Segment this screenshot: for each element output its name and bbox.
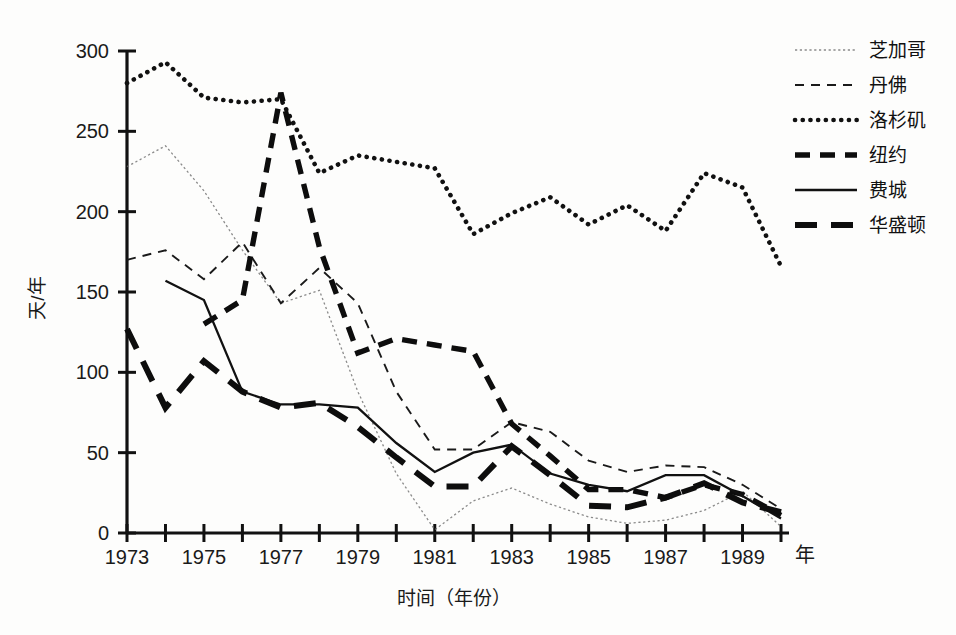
y-tick-label: 50 xyxy=(87,442,109,464)
series-line xyxy=(165,281,781,519)
chart-container: 050100150200250300 197319751977197919811… xyxy=(0,0,956,635)
x-tick-label: 1983 xyxy=(489,546,534,568)
y-tick-label: 150 xyxy=(76,281,109,303)
y-axis-title: 天/年 xyxy=(27,276,48,319)
x-tick-label: 1981 xyxy=(413,546,458,568)
y-axis-tick-labels: 050100150200250300 xyxy=(76,40,109,544)
x-tick-label: 1973 xyxy=(105,546,150,568)
legend-label: 洛杉矶 xyxy=(869,110,926,131)
y-tick-label: 100 xyxy=(76,361,109,383)
x-tick-label: 1975 xyxy=(182,546,227,568)
legend-label: 丹佛 xyxy=(869,75,907,96)
series-line xyxy=(127,62,781,266)
x-tick-label: 1987 xyxy=(643,546,688,568)
chart-axes xyxy=(118,51,789,542)
x-axis-tick-labels: 197319751977197919811983198519871989 xyxy=(105,546,765,568)
x-tick-label: 1977 xyxy=(259,546,304,568)
y-tick-label: 0 xyxy=(98,522,109,544)
y-tick-label: 300 xyxy=(76,40,109,62)
legend-label: 华盛顿 xyxy=(869,215,926,236)
x-tick-label: 1979 xyxy=(336,546,381,568)
x-axis-title: 时间（年份） xyxy=(397,588,511,609)
x-axis-unit-label: 年 xyxy=(795,544,815,566)
series-line xyxy=(127,242,781,509)
series-line xyxy=(204,93,781,516)
line-chart: 050100150200250300 197319751977197919811… xyxy=(0,0,956,635)
series-line xyxy=(127,329,781,512)
legend-label: 芝加哥 xyxy=(869,40,926,61)
x-tick-label: 1985 xyxy=(566,546,611,568)
x-tick-label: 1989 xyxy=(720,546,765,568)
legend-label: 纽约 xyxy=(869,145,907,166)
legend-label: 费城 xyxy=(869,180,907,201)
chart-series-lines xyxy=(127,62,781,530)
y-tick-label: 250 xyxy=(76,120,109,142)
y-tick-label: 200 xyxy=(76,201,109,223)
chart-legend: 芝加哥丹佛洛杉矶纽约费城华盛顿 xyxy=(795,40,926,236)
